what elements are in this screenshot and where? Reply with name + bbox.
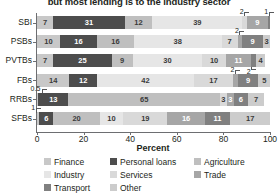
- legend-label: Services: [120, 170, 153, 180]
- y-axis-tick: [33, 42, 36, 43]
- legend-item[interactable]: Industry: [44, 170, 110, 180]
- bar-segment: 20: [53, 112, 100, 125]
- segment-callout-label: 1: [264, 8, 268, 15]
- segment-callout-label: 1: [31, 104, 35, 111]
- bar-segment: 11: [205, 112, 231, 125]
- bar-category-label: RRBs: [10, 93, 32, 106]
- bar-segment: 9: [247, 16, 268, 29]
- legend-item[interactable]: Agriculture: [194, 157, 278, 167]
- legend-label: Agriculture: [204, 157, 245, 167]
- legend-swatch-icon: [194, 171, 201, 178]
- bar-segment: 9: [242, 35, 263, 48]
- legend-item[interactable]: Personal loans: [110, 157, 194, 167]
- bar-segment: 7: [248, 93, 264, 106]
- legend-swatch-icon: [44, 171, 51, 178]
- bar-row: SFBs6201019161117: [37, 112, 270, 125]
- legend-item[interactable]: Services: [110, 170, 194, 180]
- bar-segment: 17: [194, 74, 233, 87]
- x-axis-line: [36, 132, 270, 133]
- bar-segment: 9: [112, 54, 133, 67]
- legend-label: Industry: [54, 170, 84, 180]
- legend-label: Finance: [54, 157, 84, 167]
- bar-row: PVTBs72593010114: [37, 54, 270, 67]
- legend-label: Transport: [54, 183, 90, 193]
- bar-segment: 10: [100, 112, 123, 125]
- plot-area: 21SBI731123992PSBs101616387932PVTBs72593…: [36, 13, 270, 132]
- bar-category-label: PSBs: [11, 35, 32, 48]
- segment-callout-label: 2: [230, 66, 234, 73]
- legend-swatch-icon: [110, 158, 117, 165]
- segment-callout-label: 0.5: [31, 85, 41, 92]
- bar-row: FBs1412421795: [37, 74, 270, 87]
- y-axis-tick: [33, 99, 36, 100]
- bar-segment: 7: [37, 54, 53, 67]
- legend-label: Trade: [204, 170, 226, 180]
- segment-callout-label: 2: [240, 8, 244, 15]
- legend-swatch-icon: [110, 184, 117, 191]
- bar-segment: 7: [37, 16, 53, 29]
- segment-callout-label: 2: [235, 27, 239, 34]
- bar-segment: 16: [97, 35, 134, 48]
- bar-segment: 12: [125, 16, 153, 29]
- bar-segment: 39: [152, 16, 242, 29]
- stacked-bar-chart: but most lending is to the industry sect…: [0, 0, 278, 195]
- y-axis-tick: [33, 23, 36, 24]
- bar-segment: 6: [234, 93, 248, 106]
- bar-category-label: PVTBs: [6, 54, 32, 67]
- bar-segment: 4: [256, 54, 265, 67]
- bar-segment: [268, 16, 270, 29]
- bar-segment: 14: [37, 74, 69, 87]
- legend-swatch-icon: [44, 184, 51, 191]
- bar-segment: 6: [39, 112, 53, 125]
- legend-item[interactable]: Trade: [194, 170, 278, 180]
- bar-segment: 19: [123, 112, 167, 125]
- bar-category-label: SBI: [18, 16, 32, 29]
- y-axis-tick: [33, 80, 36, 81]
- bar-segment: 25: [53, 54, 111, 67]
- chart-legend: FinancePersonal loansAgricultureIndustry…: [44, 155, 278, 195]
- bar-segment: 3: [227, 93, 234, 106]
- bar-segment: 65: [68, 93, 219, 106]
- bar-segment: 12: [69, 74, 97, 87]
- legend-swatch-icon: [110, 171, 117, 178]
- y-axis-tick: [33, 119, 36, 120]
- bar-segment: 38: [134, 35, 222, 48]
- bar-segment: 30: [133, 54, 203, 67]
- x-axis-title: Percent: [36, 143, 270, 153]
- legend-item[interactable]: Transport: [44, 183, 110, 193]
- bar-row: PSBs10161638793: [37, 35, 270, 48]
- bar-segment: 42: [97, 74, 194, 87]
- bar-segment: 7: [222, 35, 238, 48]
- legend-swatch-icon: [44, 158, 51, 165]
- bar-segment: 16: [167, 112, 204, 125]
- bar-segment: 13: [38, 93, 68, 106]
- bar-segment: 17: [230, 112, 270, 125]
- legend-label: Other: [120, 183, 141, 193]
- bar-segment: 3: [220, 93, 227, 106]
- bar-segment: 5: [258, 74, 270, 87]
- bar-category-label: SFBs: [11, 112, 32, 125]
- bar-segment: 16: [60, 35, 97, 48]
- y-axis-tick: [33, 61, 36, 62]
- chart-title: but most lending is to the industry sect…: [0, 0, 278, 7]
- legend-swatch-icon: [194, 158, 201, 165]
- legend-item[interactable]: Finance: [44, 157, 110, 167]
- bar-segment: 9: [238, 74, 259, 87]
- bar-segment: 3: [263, 35, 270, 48]
- bar-segment: 10: [202, 54, 225, 67]
- legend-label: Personal loans: [120, 157, 176, 167]
- bar-segment: 10: [37, 35, 60, 48]
- bar-segment: 31: [53, 16, 125, 29]
- bar-row: RRBs13653367: [37, 93, 270, 106]
- legend-item[interactable]: Other: [110, 183, 194, 193]
